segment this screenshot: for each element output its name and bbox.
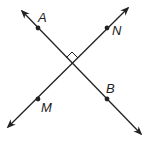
diagram-canvas: A N M B [0,0,156,148]
label-m: M [41,101,52,114]
point-m [36,97,41,102]
point-b [105,97,110,102]
right-angle-marker [66,52,78,58]
label-a: A [38,11,47,24]
point-n [105,26,110,31]
label-n: N [112,24,121,37]
point-a [36,26,41,31]
line-mn [8,8,128,127]
label-b: B [106,82,115,95]
perpendicular-lines-figure [0,0,156,148]
